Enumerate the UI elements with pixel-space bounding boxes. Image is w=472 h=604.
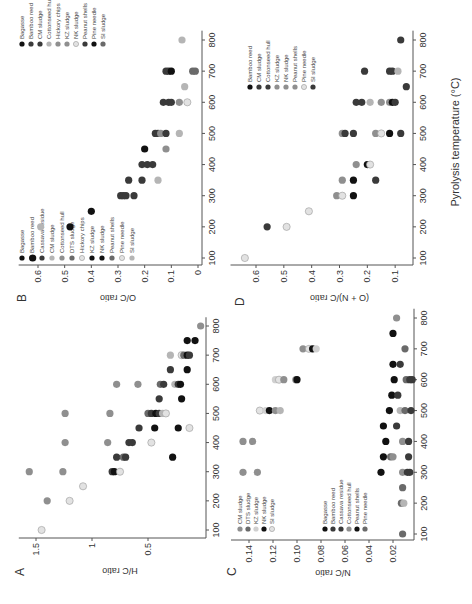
- panel-letter: D: [233, 297, 247, 306]
- panel-letter: C: [225, 567, 239, 576]
- legend-marker: [69, 255, 74, 260]
- legend-label: SI sludge: [100, 13, 106, 39]
- rotated-figure: 1002003004005006007008000.511.5AH/C rati…: [0, 0, 472, 604]
- legend-label: Peanut shells: [82, 3, 88, 39]
- data-point: [380, 422, 387, 429]
- y-tick-label: 0.3: [335, 270, 345, 283]
- legend-label: Bamboo reed: [29, 217, 35, 253]
- x-tick-label: 500: [419, 403, 429, 418]
- y-tick-label: 0.6: [251, 270, 261, 283]
- data-point: [59, 468, 66, 475]
- legend-marker: [362, 526, 367, 531]
- x-tick-label: 800: [211, 318, 221, 333]
- data-point: [353, 161, 360, 168]
- x-tick-label: 800: [207, 32, 217, 47]
- y-axis-title: (O + N)/C ratio: [310, 293, 369, 303]
- legend-marker: [46, 41, 51, 46]
- data-point: [154, 177, 161, 184]
- legend-label: CM sludge: [37, 10, 43, 39]
- data-point: [389, 453, 396, 460]
- data-point: [184, 99, 191, 106]
- data-point: [134, 381, 141, 388]
- data-point: [339, 177, 346, 184]
- legend-marker: [338, 526, 343, 531]
- data-point: [391, 376, 398, 383]
- y-axis-title: N/C ratio: [315, 568, 351, 578]
- legend-label: KZ sludge: [89, 225, 95, 253]
- data-point: [386, 407, 393, 414]
- data-point: [148, 439, 155, 446]
- data-point: [239, 438, 246, 445]
- data-point: [162, 145, 169, 152]
- legend-label: NK sludge: [261, 496, 267, 524]
- data-point: [176, 130, 183, 137]
- y-tick-label: 0.5: [279, 270, 289, 283]
- legend-label: Bamboo reed: [28, 3, 34, 39]
- data-point: [409, 376, 416, 383]
- data-point: [156, 395, 163, 402]
- data-point: [113, 381, 120, 388]
- x-tick-label: 400: [207, 157, 217, 172]
- legend-marker: [49, 255, 54, 260]
- legend-label: CM sludge: [256, 53, 262, 82]
- data-point: [397, 361, 404, 368]
- data-point: [66, 223, 73, 230]
- x-tick-label: 300: [211, 464, 221, 479]
- data-point: [177, 381, 184, 388]
- data-point: [313, 345, 320, 352]
- legend-marker: [245, 526, 250, 531]
- data-point: [130, 192, 137, 199]
- x-tick-label: 500: [418, 126, 428, 141]
- data-point: [397, 130, 404, 137]
- legend-marker: [237, 526, 242, 531]
- data-point: [176, 99, 183, 106]
- data-point: [125, 177, 132, 184]
- y-tick-label: 0.1: [390, 270, 400, 283]
- data-point: [62, 439, 69, 446]
- data-point: [293, 376, 300, 383]
- legend-label: Pine needle: [362, 492, 368, 524]
- data-point: [264, 223, 271, 230]
- data-point: [122, 454, 129, 461]
- y-tick-label: 0.4: [307, 270, 317, 283]
- data-point: [168, 99, 175, 106]
- legend-label: SI sludge: [129, 227, 135, 253]
- data-point: [394, 68, 401, 75]
- panel-d-onc-ratio: 1002003004005006007008000.10.20.30.40.50…: [231, 31, 428, 306]
- data-point: [184, 366, 191, 373]
- legend-marker: [330, 526, 335, 531]
- legend-marker: [301, 84, 306, 89]
- data-point: [186, 424, 193, 431]
- y-axis-title: H/C ratio: [102, 566, 138, 576]
- x-axis-title: Pyrolysis temperature (°C): [449, 77, 461, 206]
- data-point: [405, 453, 412, 460]
- x-tick-label: 200: [211, 493, 221, 508]
- data-point: [151, 424, 158, 431]
- y-tick-label: 0.12: [268, 545, 278, 563]
- data-point: [122, 192, 129, 199]
- x-tick-label: 600: [207, 95, 217, 110]
- panel-letter: B: [15, 294, 29, 302]
- legend-marker: [346, 526, 351, 531]
- y-tick-label: 0.5: [143, 543, 153, 556]
- legend-label: Peanut shells: [109, 217, 115, 253]
- x-tick-label: 100: [207, 250, 217, 265]
- legend-label: Bamboo reed: [247, 46, 253, 82]
- data-point: [254, 469, 261, 476]
- legend-marker: [28, 41, 33, 46]
- data-point: [393, 314, 400, 321]
- x-tick-label: 100: [211, 522, 221, 537]
- legend-marker: [99, 255, 104, 260]
- data-point: [403, 83, 410, 90]
- data-point: [372, 177, 379, 184]
- legend-marker: [247, 84, 252, 89]
- panel-c-nc-ratio: 1002003004005006007008000.020.040.060.08…: [225, 309, 429, 578]
- x-tick-label: 200: [419, 496, 429, 511]
- y-tick-label: 0.4: [86, 270, 96, 283]
- legend-label: Hickory chips: [79, 217, 85, 253]
- data-point: [350, 130, 357, 137]
- legend-marker: [269, 526, 274, 531]
- x-tick-label: 200: [207, 219, 217, 234]
- data-point: [239, 469, 246, 476]
- data-point: [162, 410, 169, 417]
